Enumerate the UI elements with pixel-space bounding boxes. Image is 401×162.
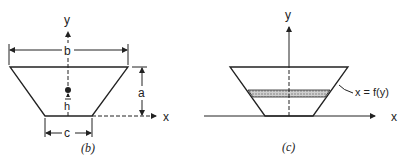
trapezoid-diagrams: y x b a h c (b) x bbox=[0, 0, 401, 162]
curve-leader bbox=[339, 85, 353, 93]
centroid-dot bbox=[65, 87, 71, 93]
figure-c: x y x = f(y) (c) bbox=[204, 8, 397, 154]
caption-c: (c) bbox=[282, 140, 295, 154]
c-label: c bbox=[64, 126, 70, 140]
x-axis-label-c: x bbox=[391, 110, 397, 124]
figure-b: y x b a h c (b) bbox=[9, 13, 169, 155]
b-label: b bbox=[64, 44, 71, 58]
h-label: h bbox=[64, 100, 70, 112]
caption-b: (b) bbox=[81, 141, 95, 155]
x-axis-label-b: x bbox=[163, 110, 169, 124]
a-label: a bbox=[138, 86, 145, 100]
curve-label: x = f(y) bbox=[355, 86, 389, 98]
y-axis-label-c: y bbox=[285, 8, 291, 22]
y-axis-label-b: y bbox=[64, 13, 70, 27]
